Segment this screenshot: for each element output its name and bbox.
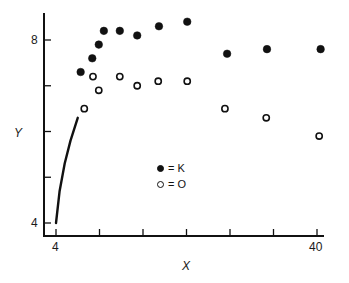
data-point-k [263, 45, 271, 53]
data-point-o [155, 78, 161, 84]
data-point-o [90, 74, 96, 80]
open-circle-icon [157, 181, 164, 188]
data-point-o [316, 133, 322, 139]
legend-item-k: = K [157, 160, 186, 176]
data-point-o [184, 78, 190, 84]
y-tick-label-8: 8 [31, 33, 38, 47]
data-point-k [133, 32, 141, 40]
y-tick-label-4: 4 [31, 216, 38, 230]
legend: = K = O [157, 160, 186, 192]
curve-line [56, 118, 78, 223]
data-point-k [155, 22, 163, 30]
data-point-k [88, 55, 96, 63]
data-point-k [183, 18, 191, 26]
data-point-k [95, 41, 103, 49]
legend-label-k: = K [168, 160, 185, 176]
data-point-k [223, 50, 231, 58]
x-tick-label-40: 40 [309, 240, 322, 254]
data-point-o [222, 106, 228, 112]
filled-circle-icon [157, 165, 164, 172]
data-series [56, 18, 324, 223]
data-point-o [134, 83, 140, 89]
data-point-o [263, 115, 269, 121]
x-axis-title: X [182, 259, 190, 273]
data-point-k [116, 27, 124, 35]
data-point-k [100, 27, 108, 35]
data-point-k [317, 45, 325, 53]
legend-item-o: = O [157, 176, 186, 192]
x-tick-label-4: 4 [52, 240, 59, 254]
legend-label-o: = O [168, 176, 186, 192]
data-point-k [77, 68, 85, 76]
y-axis-title: Y [14, 126, 22, 140]
axis-ticks [44, 40, 317, 236]
data-point-o [117, 74, 123, 80]
data-point-o [96, 87, 102, 93]
data-point-o [81, 106, 87, 112]
